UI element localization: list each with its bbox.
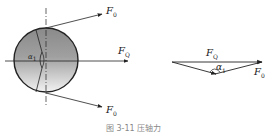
lower-force-arrow: [46, 93, 102, 107]
upper-force-arrow: [46, 14, 102, 28]
label-alpha-right: α1: [216, 63, 226, 74]
label-f0-upper: F0: [106, 6, 117, 18]
label-f0-right: F0: [254, 67, 265, 79]
force-diagram: [0, 0, 267, 132]
component-arrow-1: [172, 62, 216, 74]
label-f0-lower: F0: [106, 105, 117, 117]
figure-caption: 图 3-11 压轴力: [0, 122, 267, 132]
label-fq-left: FQ: [118, 46, 130, 58]
label-fq-right: FQ: [206, 48, 218, 60]
label-alpha-left: α1: [28, 54, 37, 62]
